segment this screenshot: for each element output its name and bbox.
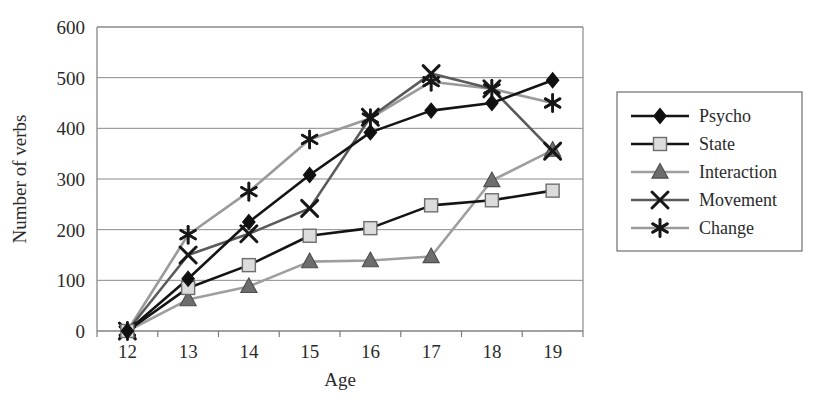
y-tick-label: 0 bbox=[76, 321, 86, 342]
legend-label-interaction: Interaction bbox=[699, 162, 777, 182]
x-tick-label: 16 bbox=[361, 341, 380, 362]
marker-square bbox=[485, 194, 498, 207]
x-tick-label: 19 bbox=[543, 341, 562, 362]
line-chart: 01002003004005006001213141516171819AgeNu… bbox=[0, 0, 826, 414]
y-axis-tick-labels: 0100200300400500600 bbox=[57, 17, 86, 342]
x-axis-tick-labels: 1213141516171819 bbox=[118, 341, 562, 362]
legend-label-psycho: Psycho bbox=[699, 106, 751, 126]
y-tick-label: 400 bbox=[57, 118, 86, 139]
x-tick-label: 12 bbox=[118, 341, 137, 362]
y-axis-gridlines bbox=[97, 27, 583, 331]
y-tick-label: 100 bbox=[57, 270, 86, 291]
x-tick-label: 13 bbox=[179, 341, 198, 362]
marker-diamond bbox=[364, 125, 376, 140]
x-axis-ticks bbox=[97, 331, 583, 337]
y-tick-label: 600 bbox=[57, 17, 86, 38]
chart-figure: 01002003004005006001213141516171819AgeNu… bbox=[0, 0, 826, 414]
marker-square bbox=[364, 222, 377, 235]
marker-square bbox=[425, 199, 438, 212]
y-tick-label: 200 bbox=[57, 220, 86, 241]
y-tick-label: 500 bbox=[57, 68, 86, 89]
marker-square bbox=[654, 138, 667, 151]
y-tick-label: 300 bbox=[57, 169, 86, 190]
x-tick-label: 18 bbox=[482, 341, 501, 362]
legend-label-movement: Movement bbox=[699, 190, 777, 210]
x-tick-label: 15 bbox=[300, 341, 319, 362]
legend-label-change: Change bbox=[699, 218, 754, 238]
legend-item-movement[interactable]: Movement bbox=[631, 190, 777, 210]
marker-square bbox=[303, 229, 316, 242]
marker-diamond bbox=[486, 96, 498, 111]
y-axis-title: Number of verbs bbox=[9, 115, 30, 244]
marker-diamond bbox=[546, 73, 558, 88]
x-axis-title: Age bbox=[324, 369, 356, 390]
marker-square bbox=[242, 259, 255, 272]
x-tick-label: 14 bbox=[239, 341, 259, 362]
marker-cross bbox=[302, 200, 318, 216]
marker-square bbox=[546, 184, 559, 197]
x-tick-label: 17 bbox=[422, 341, 441, 362]
marker-diamond bbox=[303, 167, 315, 182]
marker-cross bbox=[180, 247, 196, 263]
legend-label-state: State bbox=[699, 134, 735, 154]
marker-diamond bbox=[425, 103, 437, 118]
